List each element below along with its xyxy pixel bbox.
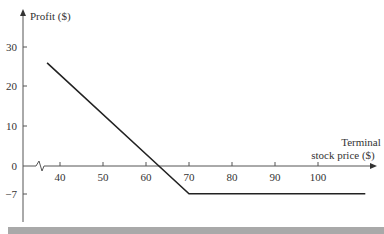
axis-break-icon <box>36 161 44 171</box>
x-axis-label-line1: Terminal <box>341 136 381 148</box>
y-ticks: 30 20 10 0 −7 <box>5 41 27 200</box>
y-tick-label: −7 <box>5 188 17 200</box>
y-tick-label: 30 <box>6 41 18 53</box>
y-axis-label: Profit ($) <box>30 10 71 23</box>
y-tick-label: 20 <box>6 80 18 92</box>
x-axis-label-line2: stock price ($) <box>311 149 375 162</box>
payoff-chart: Profit ($) 30 20 10 0 −7 40 50 60 70 80 … <box>0 0 384 234</box>
x-tick-label: 70 <box>184 171 196 183</box>
y-axis-arrow-icon <box>20 9 26 16</box>
x-tick-label: 90 <box>270 171 282 183</box>
y-tick-label: 10 <box>6 120 18 132</box>
x-axis <box>23 161 377 171</box>
x-tick-label: 40 <box>55 171 67 183</box>
x-tick-label: 60 <box>141 171 153 183</box>
x-tick-label: 50 <box>98 171 110 183</box>
bottom-divider-bar <box>8 227 384 234</box>
y-tick-label: 0 <box>12 160 18 172</box>
x-tick-label: 100 <box>310 171 327 183</box>
x-axis-arrow-icon <box>370 163 377 169</box>
x-tick-label: 80 <box>227 171 239 183</box>
x-ticks: 40 50 60 70 80 90 100 <box>55 162 327 183</box>
